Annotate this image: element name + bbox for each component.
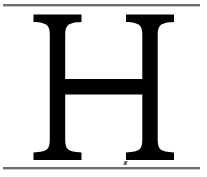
letter-h-crossbar <box>64 79 145 95</box>
scanned-page: H <box>0 0 207 177</box>
glyph-area: H <box>0 0 207 177</box>
bottom-rule-shadow <box>3 169 200 170</box>
capital-letter-h-svg: H <box>0 0 207 177</box>
